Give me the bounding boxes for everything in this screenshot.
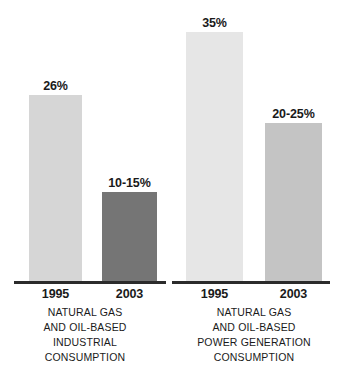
caption-line-2: AND OIL-BASED bbox=[169, 320, 339, 335]
plot-area-power-generation: 35% 20-25% bbox=[169, 0, 339, 284]
bar-value-industrial-1995: 26% bbox=[43, 80, 68, 93]
chart-group-industrial: 26% 10-15% 1995 2003 NATURAL GAS AND OIL… bbox=[0, 0, 170, 370]
year-label-industrial-2003: 2003 bbox=[102, 286, 157, 302]
year-labels-power-generation: 1995 2003 bbox=[169, 286, 339, 302]
year-label-industrial-1995: 1995 bbox=[29, 286, 82, 302]
axis-baseline-industrial bbox=[14, 281, 166, 284]
bar-industrial-2003[interactable]: 10-15% bbox=[102, 192, 157, 283]
bar-chart-figure: 26% 10-15% 1995 2003 NATURAL GAS AND OIL… bbox=[0, 0, 339, 370]
chart-group-power-generation: 35% 20-25% 1995 2003 NATURAL GAS AND OIL… bbox=[169, 0, 339, 370]
bar-industrial-1995[interactable]: 26% bbox=[29, 95, 82, 283]
bar-value-power-generation-2003: 20-25% bbox=[272, 108, 315, 121]
year-label-power-generation-1995: 1995 bbox=[186, 286, 243, 302]
bar-value-industrial-2003: 10-15% bbox=[108, 177, 151, 190]
bar-power-generation-1995[interactable]: 35% bbox=[186, 32, 243, 283]
bar-value-power-generation-1995: 35% bbox=[202, 17, 227, 30]
caption-line-2: AND OIL-BASED bbox=[0, 320, 170, 335]
caption-industrial: NATURAL GAS AND OIL-BASED INDUSTRIAL CON… bbox=[0, 305, 170, 365]
year-label-power-generation-2003: 2003 bbox=[265, 286, 322, 302]
caption-line-3: INDUSTRIAL bbox=[0, 335, 170, 350]
caption-power-generation: NATURAL GAS AND OIL-BASED POWER GENERATI… bbox=[169, 305, 339, 365]
caption-line-1: NATURAL GAS bbox=[0, 305, 170, 320]
caption-line-1: NATURAL GAS bbox=[169, 305, 339, 320]
plot-area-industrial: 26% 10-15% bbox=[0, 0, 170, 284]
bar-power-generation-2003[interactable]: 20-25% bbox=[265, 123, 322, 283]
caption-line-4: CONSUMPTION bbox=[169, 350, 339, 365]
caption-line-4: CONSUMPTION bbox=[0, 350, 170, 365]
year-labels-industrial: 1995 2003 bbox=[0, 286, 170, 302]
axis-baseline-power-generation bbox=[172, 281, 330, 284]
caption-line-3: POWER GENERATION bbox=[169, 335, 339, 350]
